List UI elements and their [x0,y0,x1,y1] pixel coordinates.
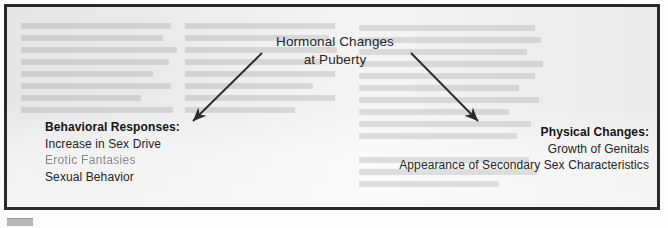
behavioral-responses-block: Behavioral Responses: Increase in Sex Dr… [45,119,180,185]
physical-changes-item: Appearance of Secondary Sex Characterist… [399,157,649,174]
physical-changes-item: Growth of Genitals [399,141,649,158]
figure-title: Hormonal Changes at Puberty [239,33,431,69]
figure-title-line-1: Hormonal Changes [239,33,431,51]
physical-changes-header: Physical Changes: [399,124,649,141]
behavioral-responses-item: Erotic Fantasies [45,152,180,169]
behavioral-responses-header: Behavioral Responses: [45,119,180,136]
behavioral-responses-item: Sexual Behavior [45,169,180,186]
figure-container: Hormonal Changes at Puberty Behavioral R… [0,0,668,228]
physical-changes-block: Physical Changes: Growth of Genitals App… [399,124,649,174]
behavioral-responses-item: Increase in Sex Drive [45,136,180,153]
figure-border-box: Hormonal Changes at Puberty Behavioral R… [4,4,660,210]
figure-number-tag [7,218,33,226]
figure-title-line-2: at Puberty [239,51,431,69]
